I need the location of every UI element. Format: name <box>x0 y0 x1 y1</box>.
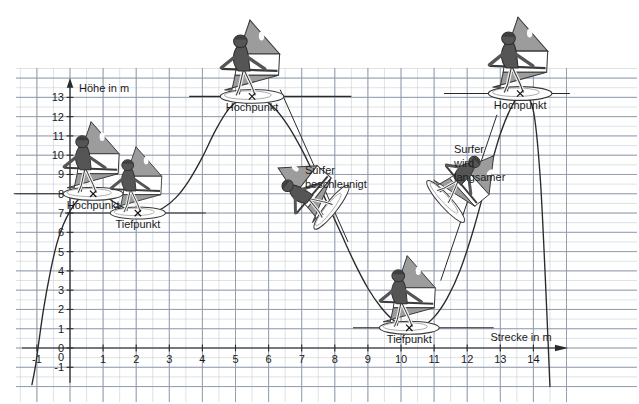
surfer-glyph-instance <box>379 256 439 335</box>
y-tick-label: 7 <box>58 207 64 219</box>
y-tick-label: 3 <box>58 284 64 296</box>
x-tick-label: 13 <box>494 353 506 365</box>
y-tick-label: 10 <box>52 149 64 161</box>
annotation-maximum: Hochpunkt <box>226 101 279 113</box>
x-tick-label: 6 <box>266 353 272 365</box>
x-tick-label: 5 <box>232 353 238 365</box>
y-tick-label: 11 <box>53 130 64 142</box>
y-tick-label: 9 <box>58 168 64 180</box>
y-axis-arrow-icon <box>67 78 74 88</box>
x-tick-label: 14 <box>527 353 539 365</box>
x-tick-label: 10 <box>395 353 407 365</box>
x-tick-label: 7 <box>299 353 305 365</box>
annotation-minimum: Tiefpunkt <box>387 333 432 345</box>
y-tick-label: 1 <box>58 323 64 335</box>
surfer-figure <box>379 256 439 335</box>
x-tick-label: 1 <box>100 353 106 365</box>
x-tick-label: 12 <box>461 353 473 365</box>
height-profile-curve <box>32 93 550 386</box>
surfer-height-chart: -11234567891011121314-101234567891011121… <box>0 0 639 404</box>
y-tick-label: 4 <box>58 265 64 277</box>
annotation-maximum: Hochpunkt <box>67 199 120 211</box>
x-tick-label: 4 <box>199 353 205 365</box>
x-tick-label: 3 <box>166 353 172 365</box>
x-tick-label: 2 <box>133 353 139 365</box>
annotation-minimum: Tiefpunkt <box>115 218 160 230</box>
surfer-figure <box>220 20 284 103</box>
y-axis-caption: Höhe in m <box>79 82 129 94</box>
y-tick-label: 2 <box>58 303 64 315</box>
y-tick-label: 13 <box>52 91 64 103</box>
y-tick-label: -1 <box>54 361 64 373</box>
height-curve <box>32 93 550 386</box>
x-axis-caption: Strecke in m <box>490 331 551 343</box>
y-tick-label: 12 <box>52 111 64 123</box>
figure-canvas: -11234567891011121314-101234567891011121… <box>0 0 639 404</box>
surfer-glyph-instance <box>220 20 284 103</box>
x-tick-label: 9 <box>365 353 371 365</box>
y-tick-label: 5 <box>58 246 64 258</box>
x-tick-label: 11 <box>428 353 439 365</box>
origin-label: 0 <box>58 351 64 363</box>
annotation-labels: HochpunktTiefpunktHochpunktTiefpunktHoch… <box>67 99 547 345</box>
annotation-maximum: Hochpunkt <box>494 99 547 111</box>
x-tick-label: 8 <box>332 353 338 365</box>
